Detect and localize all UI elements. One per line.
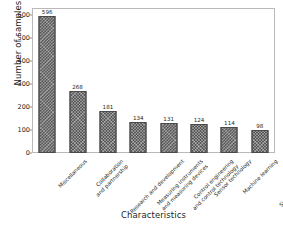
bar[interactable] [221, 127, 238, 153]
bars-layer: 59626818113413112411498 [32, 8, 275, 153]
x-axis-tick-mark [229, 145, 230, 148]
bar-value-label: 98 [256, 123, 263, 129]
x-axis-tick-mark [138, 145, 139, 148]
bar-value-label: 134 [133, 115, 144, 121]
x-axis-tick-label: Simulated developmentand virtualization [278, 158, 283, 213]
y-axis-tick-label: 0 [0, 149, 30, 157]
x-axis-tick-mark [47, 145, 48, 148]
x-axis-tick-label: Miscellaneous [57, 158, 88, 189]
bar-slot: 596 [32, 8, 62, 153]
bar-value-label: 181 [103, 104, 114, 110]
bar-value-label: 131 [163, 116, 174, 122]
x-axis-title: Characteristics [32, 210, 275, 220]
bar-slot: 131 [154, 8, 184, 153]
bar-value-label: 268 [72, 84, 83, 90]
x-axis-tick-mark [260, 145, 261, 148]
bar-slot: 98 [245, 8, 275, 153]
bar[interactable] [191, 124, 208, 153]
bar-value-label: 114 [224, 120, 235, 126]
y-axis-tick-label: 600 [0, 11, 30, 19]
y-axis-tick-label: 300 [0, 80, 30, 88]
x-axis-tick-mark [169, 145, 170, 148]
bar-slot: 181 [93, 8, 123, 153]
bar[interactable] [69, 91, 86, 153]
bar-value-label: 596 [42, 9, 53, 15]
bar[interactable] [251, 130, 268, 153]
bar-slot: 114 [214, 8, 244, 153]
bar-slot: 268 [62, 8, 92, 153]
y-axis-tick-label: 100 [0, 126, 30, 134]
y-axis-tick-label: 200 [0, 103, 30, 111]
bar[interactable] [39, 16, 56, 153]
x-axis-tick-label: Collaborationand partnership [89, 158, 129, 198]
bar-slot: 134 [123, 8, 153, 153]
x-axis-tick-mark [108, 145, 109, 148]
bar-chart: Number of samples 0100200300400500600 59… [0, 0, 283, 230]
bar[interactable] [130, 122, 147, 153]
y-axis-tick-label: 400 [0, 57, 30, 65]
bar[interactable] [160, 123, 177, 153]
bar-value-label: 124 [194, 117, 205, 123]
bar-slot: 124 [184, 8, 214, 153]
y-axis-tick-label: 500 [0, 34, 30, 42]
x-axis-tick-mark [78, 145, 79, 148]
x-axis-tick-mark [199, 145, 200, 148]
